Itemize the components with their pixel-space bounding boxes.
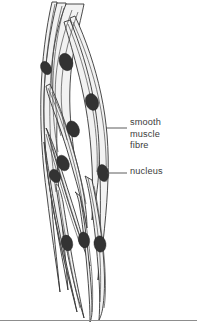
- diagram-canvas: [0, 0, 197, 324]
- label-nucleus: nucleus: [130, 166, 163, 178]
- label-smooth-muscle-fibre: smooth muscle fibre: [130, 117, 161, 152]
- smooth-muscle-figure: smooth muscle fibre nucleus: [0, 0, 197, 324]
